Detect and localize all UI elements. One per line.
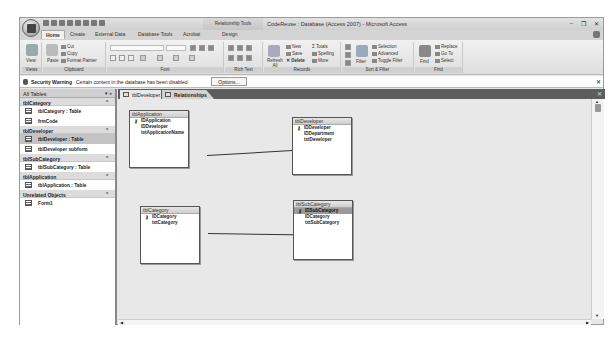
- table-box-title[interactable]: tblDeveloper: [293, 118, 351, 125]
- close-button[interactable]: ✕: [594, 20, 599, 27]
- table-box-tbldeveloper[interactable]: tblDeveloper ⚷IDDeveloper IDDepartment t…: [292, 117, 352, 175]
- filter-button[interactable]: Filter: [356, 59, 366, 64]
- redo-icon[interactable]: [59, 20, 65, 26]
- nav-item-frmcode[interactable]: frmCode: [20, 116, 115, 126]
- table-box-tblcategory[interactable]: tblCategory ⚷IDCategory txtCategory: [140, 206, 200, 264]
- align-left-icon[interactable]: [190, 45, 196, 51]
- tab-database-tools[interactable]: Database Tools: [138, 31, 172, 37]
- new-record-button[interactable]: New: [286, 44, 301, 49]
- italic-icon[interactable]: [119, 55, 125, 61]
- bullets-icon[interactable]: [228, 55, 234, 61]
- delete-button[interactable]: ✕ Delete: [286, 58, 305, 63]
- scroll-thumb[interactable]: [595, 104, 601, 112]
- nav-group-tblcategory[interactable]: tblCategory⌃: [20, 98, 115, 106]
- bold-icon[interactable]: [110, 55, 116, 61]
- nav-item-tblapplication-table[interactable]: tblApplication : Table: [20, 180, 115, 190]
- replace-button[interactable]: Replace: [435, 44, 458, 49]
- highlight-icon[interactable]: [246, 55, 252, 61]
- select-button[interactable]: Select: [435, 58, 454, 63]
- view-icon[interactable]: [26, 44, 38, 56]
- cut-button[interactable]: Cut: [61, 44, 74, 49]
- gridlines-icon[interactable]: [173, 55, 179, 61]
- tab-external-data[interactable]: External Data: [95, 31, 125, 37]
- find-button[interactable]: Find: [420, 59, 429, 64]
- indent-decrease-icon[interactable]: [228, 45, 234, 51]
- more-button[interactable]: More: [312, 58, 328, 63]
- fill-color-icon[interactable]: [157, 55, 163, 61]
- table-box-title[interactable]: tblSubCategory: [294, 201, 352, 208]
- minimize-button[interactable]: –: [570, 20, 573, 27]
- advanced-button[interactable]: Advanced: [372, 51, 398, 56]
- field-txtsubcategory[interactable]: txtSubCategory: [294, 220, 352, 226]
- scroll-right-icon[interactable]: ▶: [586, 320, 589, 325]
- nav-group-tblapplication[interactable]: tblApplication⌃: [20, 172, 115, 180]
- nav-item-tbldeveloper-subform[interactable]: tblDeveloper subform: [20, 144, 115, 154]
- table-box-title[interactable]: tblCategory: [141, 207, 199, 214]
- close-document-icon[interactable]: ✕: [597, 90, 602, 97]
- new-icon[interactable]: [67, 20, 73, 26]
- undo-icon[interactable]: [51, 20, 57, 26]
- alt-fill-icon[interactable]: [189, 55, 195, 61]
- nav-group-tblsubcategory[interactable]: tblSubCategory⌃: [20, 154, 115, 162]
- clear-sort-icon[interactable]: [345, 60, 351, 66]
- paste-icon[interactable]: [46, 44, 58, 56]
- scroll-left-icon[interactable]: ◀: [120, 320, 123, 325]
- tab-home[interactable]: Home: [41, 30, 65, 39]
- horizontal-scrollbar[interactable]: ◀ ▶: [118, 319, 591, 325]
- help-icon[interactable]: [593, 31, 600, 38]
- align-right-icon[interactable]: [208, 45, 214, 51]
- nav-item-tbldeveloper-table[interactable]: tblDeveloper : Table: [20, 134, 115, 144]
- underline-icon[interactable]: [128, 55, 134, 61]
- nav-item-form1[interactable]: Form1: [20, 198, 115, 208]
- field-txtdeveloper[interactable]: txtDeveloper: [293, 137, 351, 143]
- binoculars-icon[interactable]: [419, 45, 431, 57]
- doc-tab-tbldeveloper[interactable]: tblDeveloper: [120, 90, 161, 99]
- filter-icon[interactable]: [356, 45, 368, 57]
- indent-increase-icon[interactable]: [237, 45, 243, 51]
- nav-item-tblcategory-table[interactable]: tblCategory : Table: [20, 106, 115, 116]
- copy-button[interactable]: Copy: [61, 51, 78, 56]
- spelling-button[interactable]: Spelling: [312, 51, 334, 56]
- table-box-tblsubcategory[interactable]: tblSubCategory ⚷IDSubCategory IDCategory…: [293, 200, 353, 260]
- nav-group-tbldeveloper[interactable]: tblDeveloper⌃: [20, 126, 115, 134]
- table-box-title[interactable]: tblApplication: [130, 111, 188, 118]
- goto-button[interactable]: Go To: [435, 51, 453, 56]
- customize-icon[interactable]: [99, 20, 105, 26]
- tab-create[interactable]: Create: [70, 31, 85, 37]
- doc-tab-relationships[interactable]: Relationships: [162, 90, 214, 99]
- font-size-combo[interactable]: [166, 45, 186, 51]
- open-icon[interactable]: [75, 20, 81, 26]
- field-txtapplicationname[interactable]: txtApplicationName: [130, 130, 188, 136]
- rtl-icon[interactable]: [246, 45, 252, 51]
- format-painter-button[interactable]: Format Painter: [61, 58, 97, 63]
- refresh-icon[interactable]: [268, 45, 280, 57]
- align-center-icon[interactable]: [199, 45, 205, 51]
- numbering-icon[interactable]: [237, 55, 243, 61]
- nav-pane-controls[interactable]: ▾ «: [105, 90, 112, 96]
- toggle-filter-button[interactable]: Toggle Filter: [372, 58, 403, 63]
- tab-acrobat[interactable]: Acrobat: [183, 31, 200, 37]
- sort-descending-icon[interactable]: [345, 52, 351, 58]
- close-icon[interactable]: ✕: [596, 78, 601, 85]
- save-icon[interactable]: [43, 20, 49, 26]
- font-color-icon[interactable]: [140, 55, 146, 61]
- options-button[interactable]: Options...: [211, 77, 247, 86]
- field-txtcategory[interactable]: txtCategory: [141, 220, 199, 226]
- totals-button[interactable]: Σ Totals: [312, 44, 328, 49]
- print-icon[interactable]: [83, 20, 89, 26]
- relationships-canvas[interactable]: tblApplication ⚷IDApplication IDDevelope…: [118, 99, 591, 319]
- nav-pane-header[interactable]: All Tables ▾ «: [20, 89, 115, 98]
- save-record-button[interactable]: Save: [286, 51, 302, 56]
- office-button[interactable]: [22, 19, 40, 37]
- vertical-scrollbar[interactable]: ▲ ▼: [591, 99, 604, 319]
- font-name-combo[interactable]: [110, 45, 164, 51]
- table-box-tblapplication[interactable]: tblApplication ⚷IDApplication IDDevelope…: [129, 110, 189, 168]
- selection-button[interactable]: Selection: [372, 44, 397, 49]
- view-button[interactable]: View: [26, 58, 36, 63]
- paste-button[interactable]: Paste: [47, 58, 59, 63]
- nav-item-tblsubcategory-table[interactable]: tblSubCategory : Table: [20, 162, 115, 172]
- nav-group-unrelated-objects[interactable]: Unrelated Objects⌃: [20, 190, 115, 198]
- sort-ascending-icon[interactable]: [345, 44, 351, 50]
- spelling-icon[interactable]: [91, 20, 97, 26]
- tab-design[interactable]: Design: [222, 31, 238, 37]
